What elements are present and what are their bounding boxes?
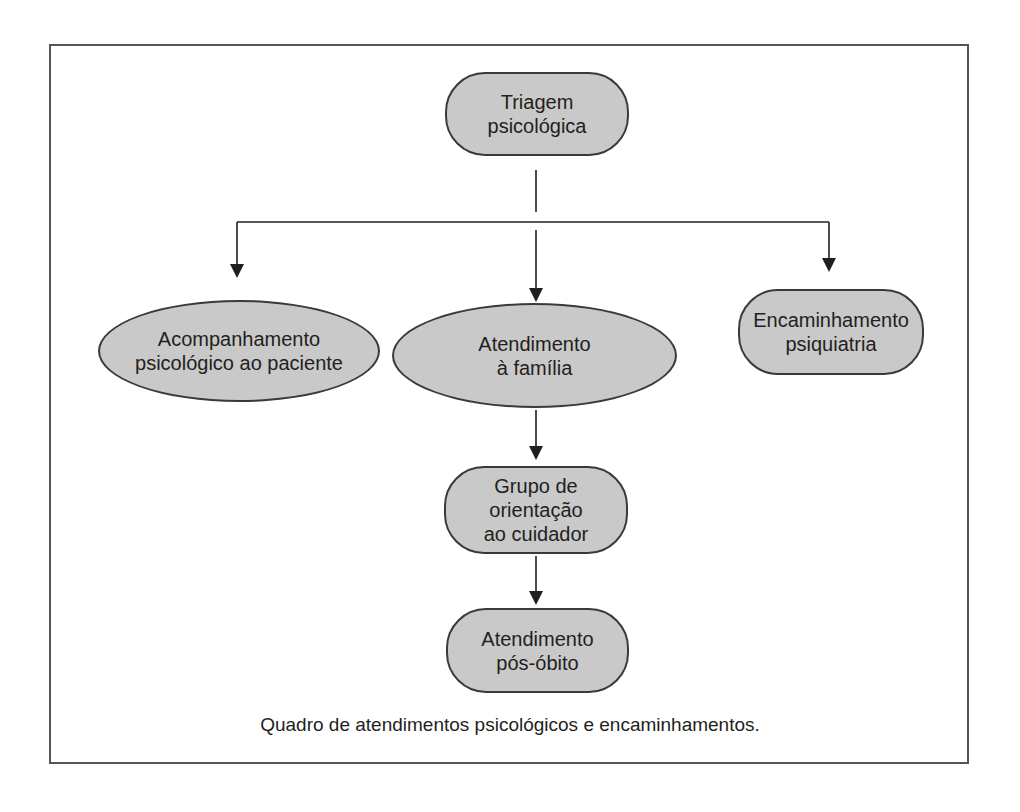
node-label-line: orientação [489,498,582,522]
node-atendimento-familia: Atendimento à família [392,303,677,408]
node-label-line: Encaminhamento [753,308,909,332]
node-label-line: Acompanhamento [158,327,320,351]
node-label-line: Grupo de [494,474,577,498]
node-encaminhamento-psiquiatria: Encaminhamento psiquiatria [738,289,924,375]
node-acompanhamento-psicologico: Acompanhamento psicológico ao paciente [98,300,380,402]
node-label-line: psiquiatria [785,332,876,356]
node-label-line: ao cuidador [484,522,589,546]
node-grupo-orientacao-cuidador: Grupo de orientação ao cuidador [444,466,628,554]
node-label-line: Atendimento [478,332,590,356]
node-label-line: Atendimento [481,627,593,651]
node-atendimento-pos-obito: Atendimento pós-óbito [446,608,629,693]
node-label-line: à família [497,356,573,380]
diagram-caption: Quadro de atendimentos psicológicos e en… [0,714,1020,736]
node-label-line: pós-óbito [496,651,578,675]
node-triagem-psicologica: Triagem psicológica [445,72,629,156]
node-label-line: psicológico ao paciente [135,351,343,375]
node-label-line: psicológica [488,114,587,138]
node-label-line: Triagem [501,90,574,114]
